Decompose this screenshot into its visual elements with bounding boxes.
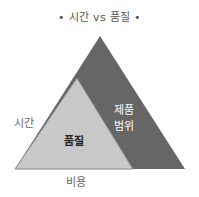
quality-label: 품질 <box>64 132 84 148</box>
product-scope-line2: 범위 <box>114 119 134 135</box>
cost-label: 비용 <box>66 173 86 189</box>
product-scope-label: 제품 범위 <box>114 103 134 135</box>
time-label: 시간 <box>14 114 34 130</box>
triangle-diagram <box>0 0 199 197</box>
product-scope-line1: 제품 <box>114 103 134 119</box>
